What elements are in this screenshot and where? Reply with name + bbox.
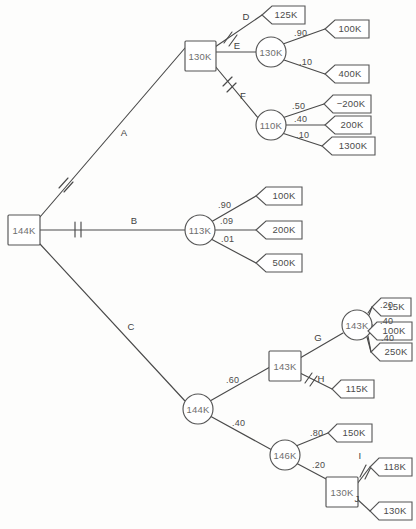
branch-label-I: I [359, 450, 362, 461]
node-chance-110k-label: 110K [260, 120, 283, 131]
terminal-500k[interactable]: 500K [256, 254, 302, 272]
prob-113k-100k: .90 [218, 200, 231, 210]
terminal-minus200k-label: −200K [337, 98, 366, 109]
prob-110k-1300k: .10 [296, 130, 309, 140]
terminal-1300k[interactable]: 1300K [322, 137, 375, 155]
node-decision-143k[interactable]: 143K [269, 351, 301, 381]
prob-113k-200k: .09 [220, 216, 233, 226]
prob-143k-15k: .20 [380, 300, 393, 310]
terminal-200k-a-label: 200K [341, 119, 364, 130]
terminal-1300k-label: 1300K [339, 140, 368, 151]
prune-mark-H [305, 373, 317, 386]
node-decision-130k-bottom[interactable]: 130K [326, 477, 358, 507]
node-decision-143k-label: 143K [274, 361, 297, 372]
edge-root-A[interactable] [40, 48, 185, 217]
terminal-100k-a[interactable]: 100K [325, 20, 369, 38]
prob-143k-250k: .40 [381, 333, 394, 343]
prune-mark-group [59, 32, 371, 479]
terminal-400k-label: 400K [339, 68, 362, 79]
node-chance-143k[interactable]: 143K [342, 310, 372, 340]
prob-144k-146k: .40 [232, 418, 245, 428]
branch-label-group: A B C D E F G H I J [121, 11, 362, 504]
edge-d1-F[interactable] [215, 66, 259, 119]
terminal-200k-b[interactable]: 200K [256, 221, 302, 239]
terminal-130k[interactable]: 130K [370, 502, 412, 520]
branch-label-D: D [242, 11, 249, 22]
node-chance-144k-label: 144K [187, 404, 210, 415]
terminal-200k-a[interactable]: 200K [325, 116, 371, 134]
prob-130k-400k: .10 [299, 57, 312, 67]
prob-110k-200k: .40 [294, 114, 307, 124]
branch-label-A: A [121, 127, 128, 138]
prob-146k-150k: .80 [310, 428, 323, 438]
node-chance-146k-label: 146K [274, 450, 297, 461]
terminal-150k-label: 150K [343, 427, 366, 438]
branch-label-C: C [127, 321, 134, 332]
branch-label-E: E [234, 40, 241, 51]
terminal-100k-b-label: 100K [273, 190, 296, 201]
terminal-200k-b-label: 200K [273, 224, 296, 235]
terminal-minus200k[interactable]: −200K [324, 95, 371, 113]
branch-label-H: H [317, 373, 324, 384]
node-chance-146k[interactable]: 146K [270, 440, 300, 470]
terminal-130k-label: 130K [384, 505, 407, 516]
terminal-250k[interactable]: 250K [371, 343, 412, 361]
branch-label-B: B [131, 215, 138, 226]
prob-130k-100k: .90 [294, 28, 307, 38]
terminal-115k[interactable]: 115K [332, 380, 374, 398]
terminal-125k[interactable]: 125K [262, 6, 305, 24]
prob-146k-130k: .20 [312, 460, 325, 470]
terminal-500k-label: 500K [273, 257, 296, 268]
prob-110k-minus200k: .50 [292, 101, 305, 111]
prune-mark-A [59, 178, 73, 192]
node-chance-130k[interactable]: 130K [256, 37, 286, 67]
branch-label-J: J [355, 493, 360, 504]
terminal-400k[interactable]: 400K [325, 65, 369, 83]
decision-tree-svg: 144K 130K 130K 110K 113K [0, 0, 416, 529]
node-chance-113k[interactable]: 113K [185, 215, 215, 245]
prob-113k-500k: .01 [221, 234, 234, 244]
node-chance-130k-label: 130K [260, 47, 283, 58]
branch-label-F: F [240, 90, 246, 101]
node-root[interactable]: 144K [8, 215, 40, 245]
node-decision-130k-bottom-label: 130K [331, 487, 354, 498]
terminal-115k-label: 115K [346, 383, 369, 394]
node-root-label: 144K [13, 225, 36, 236]
decision-tree-canvas: 144K 130K 130K 110K 113K [0, 0, 416, 529]
terminal-150k[interactable]: 150K [328, 424, 372, 442]
branch-label-G: G [314, 332, 322, 343]
node-chance-144k[interactable]: 144K [183, 394, 213, 424]
terminal-118k[interactable]: 118K [370, 458, 412, 476]
terminal-100k-b[interactable]: 100K [256, 187, 302, 205]
prob-144k-143k: .60 [226, 375, 239, 385]
terminal-100k-a-label: 100K [339, 23, 362, 34]
terminal-250k-label: 250K [385, 346, 408, 357]
edge-root-C[interactable] [40, 244, 185, 401]
terminal-118k-label: 118K [384, 461, 407, 472]
node-chance-143k-label: 143K [346, 320, 369, 331]
node-decision-130k-top[interactable]: 130K [185, 41, 216, 71]
node-decision-130k-top-label: 130K [189, 51, 212, 62]
prob-143k-100k: .40 [380, 316, 393, 326]
edge-c144-d143[interactable] [210, 367, 270, 401]
terminal-125k-label: 125K [275, 9, 298, 20]
node-chance-113k-label: 113K [189, 225, 212, 236]
node-chance-110k[interactable]: 110K [256, 110, 286, 140]
edge-d143-H[interactable] [300, 373, 332, 389]
